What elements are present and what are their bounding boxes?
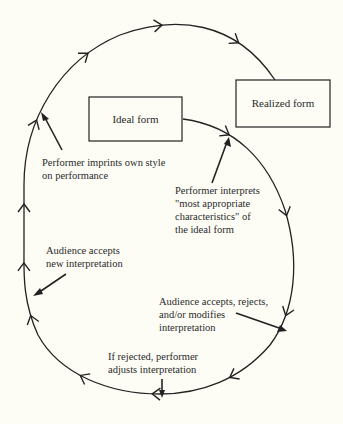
pointer-interprets: [212, 137, 231, 183]
annotation-audience-response-line: interpretation: [159, 322, 216, 333]
annotation-interprets-line: Performer interprets: [175, 185, 260, 196]
annotation-interprets-line: the ideal form: [175, 224, 234, 235]
annotation-imprint-line: Performer imprints own style: [42, 157, 166, 168]
annotation-rejected-line: adjusts interpretation: [108, 364, 197, 375]
annotation-imprint: Performer imprints own style on performa…: [42, 157, 168, 181]
annotation-interprets-line: "most appropriate: [175, 198, 250, 209]
direction-arrows: [18, 19, 294, 400]
annotation-rejected: If rejected, performer adjusts interpret…: [108, 351, 201, 375]
annotation-audience-response-line: and/or modifies: [159, 309, 225, 320]
pointer-audience-response: [236, 313, 287, 332]
annotation-audience-new-line: new interpretation: [46, 258, 123, 269]
pointer-audience-new: [33, 274, 66, 296]
annotation-audience-response: Audience accepts, rejects, and/or modifi…: [159, 296, 271, 333]
annotation-audience-new-line: Audience accepts: [46, 245, 120, 256]
realized-form-label: Realized form: [252, 97, 315, 109]
annotation-audience-new: Audience accepts new interpretation: [46, 245, 123, 269]
ideal-form-label: Ideal form: [112, 113, 159, 125]
pointer-imprint: [41, 112, 62, 150]
annotation-imprint-line: on performance: [42, 170, 109, 181]
annotation-rejected-line: If rejected, performer: [108, 351, 199, 362]
performance-cycle-diagram: Ideal form Realized form Performer impri…: [0, 0, 343, 424]
annotation-audience-response-line: Audience accepts, rejects,: [159, 296, 268, 307]
annotation-interprets-line: characteristics" of: [175, 211, 251, 222]
annotation-interprets: Performer interprets "most appropriate c…: [175, 185, 262, 235]
